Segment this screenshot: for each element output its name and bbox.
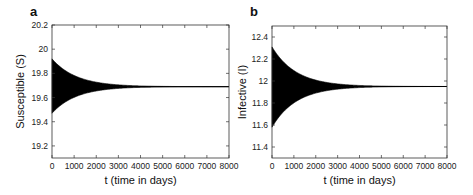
x-tick-label: 0 (270, 161, 275, 171)
x-tick-label: 5000 (372, 161, 391, 171)
x-tick-label: 7000 (416, 161, 435, 171)
x-tick-label: 4000 (131, 161, 150, 171)
x-axis-label: t (time in days) (104, 174, 176, 186)
x-tick-label: 2000 (306, 161, 325, 171)
series-envelope-susceptible (52, 59, 229, 113)
x-tick-label: 3000 (328, 161, 347, 171)
y-tick-label: 11.6 (252, 120, 268, 130)
panel-a: 01000200030004000500060007000800019.219.… (14, 4, 239, 186)
x-axis-label: t (time in days) (323, 174, 395, 186)
y-tick-label: 19.8 (31, 68, 48, 78)
x-tick-label: 6000 (175, 161, 194, 171)
y-tick-label: 12 (259, 76, 269, 86)
y-axis-label: Infective (I) (236, 65, 248, 119)
y-tick-label: 19.4 (31, 117, 48, 127)
x-tick-label: 3000 (109, 161, 128, 171)
panel-label: b (250, 4, 258, 19)
x-tick-label: 1000 (65, 161, 84, 171)
x-tick-label: 8000 (438, 161, 457, 171)
y-tick-label: 20 (39, 44, 49, 54)
panel-b: 01000200030004000500060007000800011.411.… (236, 4, 457, 186)
x-tick-label: 4000 (350, 161, 369, 171)
x-tick-label: 1000 (284, 161, 303, 171)
x-tick-label: 0 (50, 161, 55, 171)
x-tick-label: 2000 (87, 161, 106, 171)
figure: 01000200030004000500060007000800019.219.… (0, 0, 473, 195)
x-tick-label: 7000 (197, 161, 216, 171)
x-tick-label: 8000 (220, 161, 239, 171)
y-tick-label: 20.2 (31, 20, 48, 30)
x-tick-label: 6000 (394, 161, 413, 171)
x-tick-label: 5000 (153, 161, 172, 171)
y-tick-label: 11.4 (252, 142, 268, 152)
y-tick-label: 19.2 (31, 141, 48, 151)
y-tick-label: 19.6 (31, 93, 48, 103)
series-envelope-infective (272, 47, 447, 127)
y-axis-label: Susceptible (S) (14, 54, 26, 129)
y-tick-label: 11.8 (252, 98, 268, 108)
y-tick-label: 12.2 (251, 54, 268, 64)
y-tick-label: 12.4 (251, 32, 268, 42)
panel-label: a (30, 4, 38, 19)
